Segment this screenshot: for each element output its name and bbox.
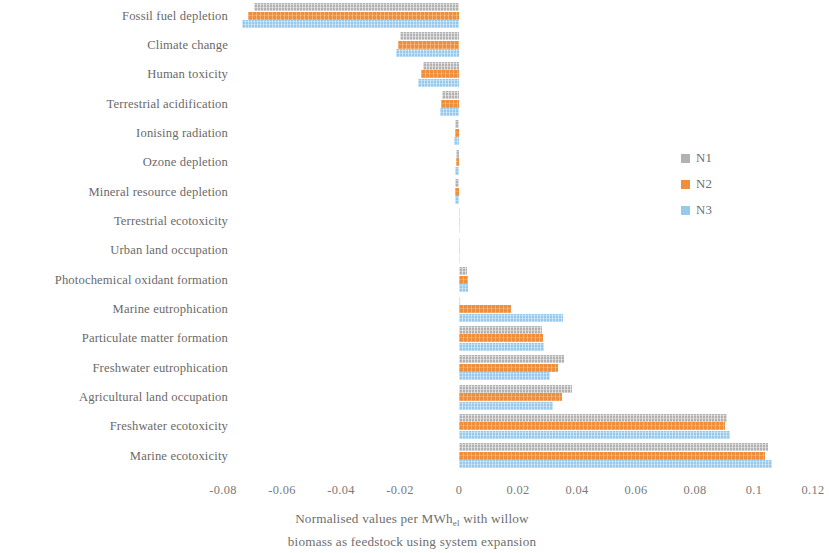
bar-n1: [455, 179, 459, 187]
legend-label: N2: [696, 171, 712, 197]
bar-fill: [455, 129, 459, 137]
legend-label: N1: [696, 145, 712, 171]
bar-n3: [440, 108, 459, 116]
legend-item-n2: N2: [681, 170, 771, 196]
bar-n1: [459, 385, 572, 393]
bar-n2: [459, 452, 765, 460]
bar-fill: [459, 297, 460, 305]
bar-n2: [455, 129, 459, 137]
bar-n2: [248, 12, 459, 20]
x-axis-tick-label: -0.02: [370, 483, 430, 498]
bar-fill: [459, 217, 460, 225]
bar-n1: [459, 238, 460, 246]
bar-n2: [459, 422, 725, 430]
bar-fill: [398, 41, 459, 49]
bar-fill: [459, 225, 460, 233]
bar-n2: [459, 393, 562, 401]
bar-fill: [455, 196, 459, 204]
x-axis-tick-label: 0.12: [783, 483, 829, 498]
bar-fill: [418, 79, 459, 87]
x-axis-tick-label: -0.08: [193, 483, 253, 498]
bar-fill: [459, 314, 563, 322]
bar-n3: [455, 167, 459, 175]
bar-n2: [456, 158, 459, 166]
bar-fill: [459, 246, 460, 254]
x-axis-title: Normalised values per MWhel with willow …: [0, 508, 824, 552]
bar-fill: [455, 188, 459, 196]
bar-n3: [459, 343, 544, 351]
bar-n3: [418, 79, 459, 87]
x-axis-tick-label: -0.04: [311, 483, 371, 498]
bar-fill: [459, 452, 765, 460]
bar-fill: [459, 305, 511, 313]
bar-fill: [459, 267, 467, 275]
bar-fill: [442, 91, 459, 99]
bar-n3: [459, 402, 553, 410]
bar-fill: [459, 355, 564, 363]
legend-item-n3: N3: [681, 196, 771, 222]
bar-fill: [421, 70, 459, 78]
bar-n1: [400, 32, 459, 40]
x-axis-title-line2: biomass as feedstock using system expans…: [288, 534, 537, 549]
bar-n2: [459, 334, 543, 342]
bar-fill: [248, 12, 459, 20]
bar-fill: [396, 49, 459, 57]
bar-n1: [459, 414, 727, 422]
bar-fill: [459, 364, 558, 372]
plot-area: [0, 0, 824, 480]
bar-n2: [441, 100, 459, 108]
bar-fill: [440, 108, 459, 116]
bar-fill: [459, 431, 730, 439]
bar-fill: [456, 158, 459, 166]
bar-n2: [459, 217, 460, 225]
bar-fill: [459, 238, 460, 246]
legend-swatch-icon: [681, 180, 690, 189]
bar-n2: [455, 188, 459, 196]
legend-item-n1: N1: [681, 144, 771, 170]
bar-n1: [459, 443, 768, 451]
bar-fill: [459, 276, 468, 284]
bar-fill: [459, 255, 460, 263]
x-axis-tick-label: 0: [429, 483, 489, 498]
bar-n1: [254, 3, 459, 11]
legend-swatch-icon: [681, 206, 690, 215]
bar-fill: [423, 62, 459, 70]
x-axis-tick-label: -0.06: [252, 483, 312, 498]
bar-n1: [459, 355, 564, 363]
bar-n3: [459, 460, 772, 468]
bar-n3: [454, 137, 459, 145]
x-axis-tick-label: 0.1: [724, 483, 784, 498]
bar-n3: [459, 372, 550, 380]
x-axis-tick-label: 0.08: [665, 483, 725, 498]
x-axis-title-subscript: el: [453, 518, 460, 528]
bar-fill: [459, 334, 543, 342]
bar-fill: [454, 137, 459, 145]
bar-n2: [459, 276, 468, 284]
bar-fill: [459, 284, 468, 292]
bar-fill: [400, 32, 459, 40]
x-axis-tick-label: 0.06: [606, 483, 666, 498]
bar-fill: [459, 460, 772, 468]
bar-n3: [459, 255, 460, 263]
bar-n1: [423, 62, 459, 70]
legend-swatch-icon: [681, 154, 690, 163]
bar-fill: [455, 167, 459, 175]
bar-fill: [459, 385, 572, 393]
bar-fill: [459, 422, 725, 430]
bar-n3: [242, 20, 459, 28]
bar-n2: [459, 246, 460, 254]
bar-n3: [459, 314, 563, 322]
bar-n1: [442, 91, 459, 99]
bar-fill: [459, 402, 553, 410]
bar-fill: [459, 393, 562, 401]
bar-n1: [459, 297, 460, 305]
bar-n1: [456, 150, 459, 158]
bar-n3: [459, 225, 460, 233]
legend-label: N3: [696, 197, 712, 223]
bar-n2: [459, 305, 511, 313]
bar-fill: [459, 372, 550, 380]
x-axis-tick-label: 0.04: [547, 483, 607, 498]
bar-n3: [396, 49, 459, 57]
bar-n2: [398, 41, 459, 49]
